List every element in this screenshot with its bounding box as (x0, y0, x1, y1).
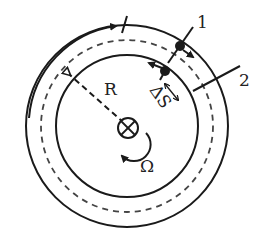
marker-2-label: 2 (239, 70, 250, 90)
marker-1-arrow (183, 50, 193, 57)
omega-label: Ω (140, 156, 154, 176)
center-axis-icon (118, 118, 138, 138)
marker-2-line (193, 66, 240, 91)
radius-label: R (104, 79, 118, 99)
ring-diagram: R Ω 1 2 ΔS (0, 0, 261, 237)
delta-s-label: ΔS (146, 81, 176, 112)
marker-1-label: 1 (197, 12, 208, 32)
